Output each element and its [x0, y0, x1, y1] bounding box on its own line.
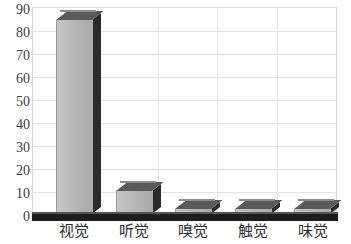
chart-floor	[32, 214, 338, 221]
y-axis-tick-label: 40	[0, 118, 30, 132]
bar-top-highlight	[120, 181, 156, 183]
x-axis-tick-label: 听觉	[104, 221, 164, 241]
y-axis-tick-label: 0	[0, 210, 30, 224]
y-axis-tick-label: 80	[0, 26, 30, 40]
bar-front-face	[116, 191, 153, 214]
y-axis-tick-label: 70	[0, 49, 30, 63]
y-axis-tick-label: 20	[0, 164, 30, 178]
x-axis: 视觉 听觉 嗅觉 触觉 味觉	[32, 221, 337, 244]
bar-top-highlight	[60, 10, 96, 12]
x-axis-tick-label: 嗅觉	[163, 221, 223, 241]
y-axis-tick-label: 90	[0, 3, 30, 17]
bar-front-face	[56, 20, 93, 214]
y-axis-tick-label: 60	[0, 72, 30, 86]
bar-top-highlight	[298, 199, 334, 201]
bar-top-highlight	[179, 199, 215, 201]
y-axis: 90 80 70 60 50 40 30 20 10 0	[0, 0, 30, 244]
y-axis-tick-label: 10	[0, 187, 30, 201]
bar-side-face	[92, 13, 101, 214]
bar-chart: 90 80 70 60 50 40 30 20 10 0	[0, 0, 351, 244]
bar-top-highlight	[239, 199, 275, 201]
x-axis-tick-label: 触觉	[223, 221, 283, 241]
x-axis-tick-label: 味觉	[283, 221, 343, 241]
bar-series	[32, 7, 337, 221]
y-axis-tick-label: 30	[0, 141, 30, 155]
y-axis-tick-label: 50	[0, 95, 30, 109]
x-axis-tick-label: 视觉	[44, 221, 104, 241]
